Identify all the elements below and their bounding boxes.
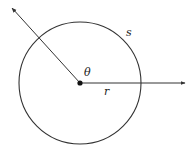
theta-label: θ <box>84 66 91 79</box>
s-label: s <box>126 26 132 39</box>
center-point <box>77 80 82 85</box>
radius-ray-diagonal <box>12 8 80 83</box>
r-label: r <box>104 85 110 98</box>
circle-diagram: θ r s <box>0 0 192 150</box>
